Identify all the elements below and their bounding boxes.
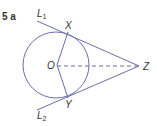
circle (23, 32, 89, 98)
label-y: Y (65, 99, 73, 110)
label-l1: L1 (37, 8, 47, 20)
label-l2: L2 (37, 110, 47, 122)
label-z: Z (142, 61, 150, 72)
label-o: O (47, 60, 55, 71)
radius-oy (57, 65, 68, 98)
tangent-diagram: L1 X O Z Y L2 (0, 0, 157, 126)
label-x: X (64, 20, 72, 31)
radius-ox (57, 32, 68, 65)
